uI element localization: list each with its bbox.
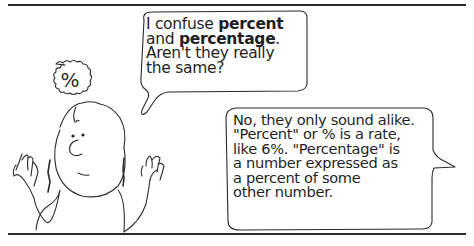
- left-hand: [13, 154, 38, 186]
- a-line: other number.: [233, 183, 333, 200]
- question-text: I confuse percent and percentage. Aren't…: [146, 17, 283, 75]
- left-eye: [71, 134, 74, 137]
- percent-symbol: %: [60, 68, 79, 92]
- q-line4: the same?: [146, 59, 224, 77]
- face: [55, 130, 125, 197]
- mouth: [78, 173, 89, 175]
- answer-text: No, they only sound alike. "Percent" or …: [233, 113, 415, 199]
- left-arm: [24, 180, 60, 230]
- right-earring: [123, 158, 124, 186]
- q-line2-post: .: [275, 30, 280, 48]
- right-hand: [141, 156, 164, 180]
- hair: [60, 102, 125, 148]
- left-earring: [48, 160, 50, 192]
- right-arm: [118, 180, 150, 232]
- right-eye: [81, 133, 84, 136]
- nose: [70, 140, 82, 156]
